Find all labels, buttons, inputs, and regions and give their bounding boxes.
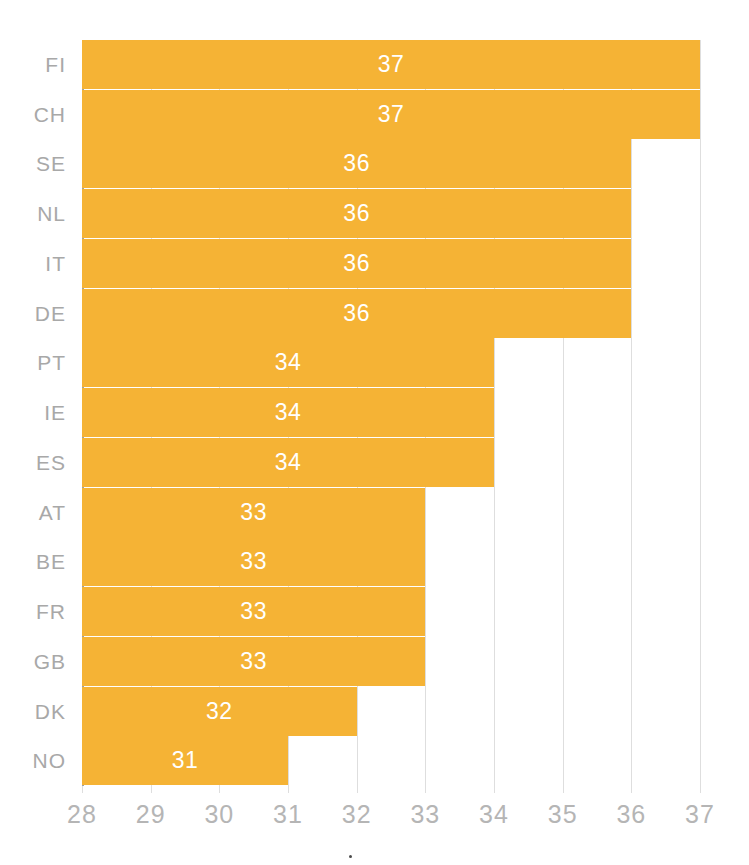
tick-mark	[700, 786, 701, 793]
x-tick-label: 29	[116, 800, 186, 829]
bar-row: 36	[82, 239, 700, 288]
bar-value-label: 33	[82, 637, 425, 686]
category-label-at: AT	[0, 488, 66, 537]
bar-row: 34	[82, 388, 700, 437]
bar-value-label: 34	[82, 438, 494, 487]
bar-row: 31	[82, 736, 700, 785]
category-label-gb: GB	[0, 637, 66, 686]
x-tick-label: 30	[184, 800, 254, 829]
bar-pt[interactable]: 34	[82, 338, 494, 387]
bar-value-label: 37	[82, 40, 700, 89]
category-label-dk: DK	[0, 687, 66, 736]
category-label-pt: PT	[0, 338, 66, 387]
value-axis: 28293031323334353637	[0, 800, 749, 840]
bar-row: 34	[82, 438, 700, 487]
bar-es[interactable]: 34	[82, 438, 494, 487]
plot-area: 373736363636343434333333333231	[82, 40, 700, 786]
bar-value-label: 36	[82, 239, 631, 288]
category-axis: FICHSENLITDEPTIEESATBEFRGBDKNO	[0, 40, 66, 786]
bar-row: 33	[82, 537, 700, 586]
category-label-se: SE	[0, 139, 66, 188]
bar-ie[interactable]: 34	[82, 388, 494, 437]
tick-mark	[219, 786, 220, 793]
x-tick-label: 28	[47, 800, 117, 829]
bar-row: 33	[82, 637, 700, 686]
category-label-be: BE	[0, 537, 66, 586]
bar-value-label: 36	[82, 289, 631, 338]
bar-row: 36	[82, 189, 700, 238]
x-tick-label: 31	[253, 800, 323, 829]
bar-no[interactable]: 31	[82, 736, 288, 785]
x-tick-label: 34	[459, 800, 529, 829]
bar-dk[interactable]: 32	[82, 687, 357, 736]
bar-value-label: 31	[82, 736, 288, 785]
category-label-fi: FI	[0, 40, 66, 89]
tick-mark	[288, 786, 289, 793]
tick-mark	[82, 786, 83, 793]
tick-mark	[563, 786, 564, 793]
category-label-ie: IE	[0, 388, 66, 437]
tick-mark	[151, 786, 152, 793]
bar-value-label: 36	[82, 139, 631, 188]
bar-row: 32	[82, 687, 700, 736]
bar-value-label: 33	[82, 587, 425, 636]
bar-de[interactable]: 36	[82, 289, 631, 338]
bar-value-label: 37	[82, 90, 700, 139]
bar-row: 36	[82, 289, 700, 338]
x-tick-label: 35	[528, 800, 598, 829]
x-tick-label: 32	[322, 800, 392, 829]
bar-se[interactable]: 36	[82, 139, 631, 188]
tick-mark	[631, 786, 632, 793]
bar-fi[interactable]: 37	[82, 40, 700, 89]
category-label-de: DE	[0, 289, 66, 338]
tick-mark	[357, 786, 358, 793]
bar-at[interactable]: 33	[82, 488, 425, 537]
x-tick-label: 37	[665, 800, 735, 829]
bar-value-label: 34	[82, 338, 494, 387]
bar-gb[interactable]: 33	[82, 637, 425, 686]
bar-value-label: 34	[82, 388, 494, 437]
x-tick-label: 33	[390, 800, 460, 829]
bar-value-label: 33	[82, 488, 425, 537]
bar-value-label: 36	[82, 189, 631, 238]
bar-it[interactable]: 36	[82, 239, 631, 288]
bar-value-label: 33	[82, 537, 425, 586]
tick-mark	[494, 786, 495, 793]
bar-row: 34	[82, 338, 700, 387]
bar-row: 37	[82, 90, 700, 139]
bar-chart: FICHSENLITDEPTIEESATBEFRGBDKNO 373736363…	[0, 0, 749, 865]
bar-fr[interactable]: 33	[82, 587, 425, 636]
category-label-nl: NL	[0, 189, 66, 238]
gridline	[700, 40, 701, 786]
category-label-ch: CH	[0, 90, 66, 139]
category-label-es: ES	[0, 438, 66, 487]
bar-row: 33	[82, 587, 700, 636]
bar-nl[interactable]: 36	[82, 189, 631, 238]
stray-dot	[349, 855, 352, 858]
category-label-fr: FR	[0, 587, 66, 636]
bar-ch[interactable]: 37	[82, 90, 700, 139]
bar-be[interactable]: 33	[82, 537, 425, 586]
tick-mark	[425, 786, 426, 793]
bar-row: 36	[82, 139, 700, 188]
category-label-it: IT	[0, 239, 66, 288]
x-tick-label: 36	[596, 800, 666, 829]
bar-row: 33	[82, 488, 700, 537]
bar-series: 373736363636343434333333333231	[82, 40, 700, 786]
bar-value-label: 32	[82, 687, 357, 736]
category-label-no: NO	[0, 736, 66, 785]
bar-row: 37	[82, 40, 700, 89]
